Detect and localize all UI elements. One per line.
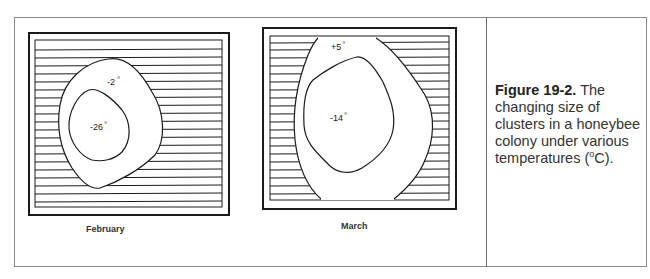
figure-number: Figure 19-2.: [495, 82, 576, 98]
caption-unit: C).: [594, 150, 613, 166]
march-label: March: [341, 221, 368, 231]
february-label: February: [86, 224, 125, 234]
march-hive-diagram: +5° -14°: [263, 28, 456, 209]
figure-caption: Figure 19-2. The changing size of cluste…: [495, 82, 645, 167]
february-hive-diagram: -2° -26°: [29, 33, 229, 215]
